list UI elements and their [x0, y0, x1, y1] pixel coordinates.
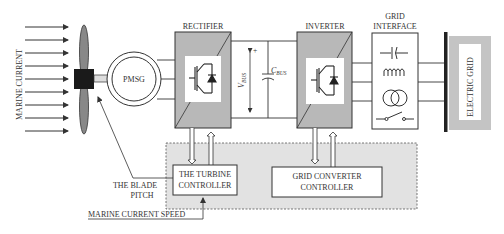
turbine-controller-label-line1: THE TURBINE	[179, 170, 231, 179]
pmsg-label: PMSG	[123, 75, 145, 84]
vbus-plus: +	[253, 46, 257, 55]
electric-grid-label: ELECTRIC GRID	[466, 57, 475, 117]
blade-pitch-label-line2: PITCH	[130, 191, 153, 200]
grid-busbar	[444, 32, 448, 132]
grid-converter-controller-label-line2: CONTROLLER	[301, 183, 355, 192]
blade-pitch-label-line1: THE BLADE	[113, 181, 157, 190]
grid-connection-lines	[418, 63, 445, 101]
grid-converter-controller-label-line1: GRID CONVERTER	[292, 172, 362, 181]
grid-interface-label-line2: INTERFACE	[373, 22, 417, 31]
turbine-hub	[74, 69, 94, 89]
marine-current-speed-label: MARINE CURRENT SPEED	[88, 210, 185, 219]
rectifier-label: RECTIFIER	[183, 22, 224, 31]
inverter-block	[297, 32, 352, 128]
rectifier-block	[175, 32, 231, 128]
grid-interface-label-line1: GRID	[385, 12, 405, 21]
power-conversion-diagram: MARINE CURRENT PMSG RECTIFIER	[0, 0, 504, 234]
cbus-label: CBUS	[271, 66, 287, 76]
blade-pitch-signal-line	[98, 97, 173, 178]
turbine-controller-label-line2: CONTROLLER	[179, 181, 233, 190]
marine-current-label: MARINE CURRENT	[15, 49, 24, 120]
inverter-output-lines	[352, 63, 374, 101]
turbine-shaft	[94, 75, 108, 82]
marine-current-arrows	[25, 27, 68, 131]
vbus-label: VBUS	[237, 73, 247, 88]
inverter-label: INVERTER	[305, 22, 345, 31]
